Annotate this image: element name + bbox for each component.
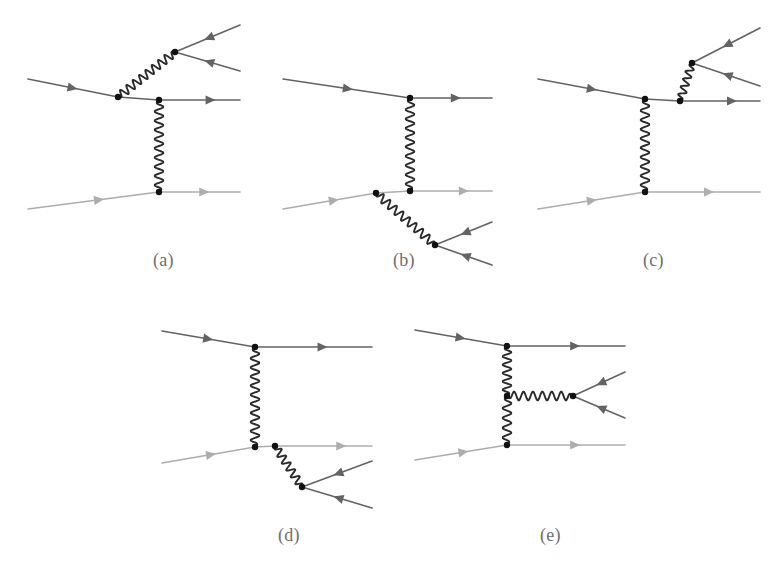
fermion-arrow-icon-d-pair-lepton-lower	[334, 495, 345, 504]
vertex-dot-d-0	[252, 344, 258, 350]
vertex-dot-d-2	[272, 443, 278, 449]
diagram-canvas	[0, 0, 770, 566]
fermion-line-c-outgoing-upper-fermion	[645, 99, 760, 101]
fermion-arrow-icon-c-pair-lepton-lower	[723, 72, 734, 81]
panel-label-b: (b)	[393, 250, 415, 271]
photon-line-c-exchange-photon	[641, 99, 649, 192]
fermion-arrow-icon-c-outgoing-upper-fermion	[727, 96, 737, 105]
vertex-dot-c-0	[642, 96, 648, 102]
vertex-dot-e-3	[570, 393, 576, 399]
photon-line-e-internal-conversion-photon	[507, 392, 573, 400]
vertex-dot-a-2	[156, 189, 162, 195]
photon-line-b-exchange-photon	[406, 98, 414, 191]
fermion-line-a-incoming-lower-fermion	[28, 192, 159, 209]
fermion-arrow-icon-b-incoming-lower-fermion	[328, 197, 339, 206]
vertex-dot-e-0	[504, 343, 510, 349]
fermion-arrow-icon-e-incoming-lower-fermion	[458, 448, 469, 457]
panel-label-d: (d)	[278, 525, 300, 546]
vertex-dot-c-2	[677, 98, 683, 104]
fermion-arrow-icon-d-incoming-upper-fermion	[203, 334, 214, 343]
photon-line-a-emitted-photon	[118, 52, 175, 97]
fermion-line-a-outgoing-upper-fermion	[118, 97, 240, 100]
fermion-arrow-icon-a-outgoing-lower-fermion	[199, 187, 209, 196]
fermion-arrow-icon-b-outgoing-upper-fermion	[451, 93, 461, 102]
fermion-arrow-icon-a-outgoing-upper-fermion	[206, 95, 216, 104]
fermion-arrow-icon-b-pair-lepton-lower	[461, 253, 472, 262]
fermion-arrow-icon-d-outgoing-lower-fermion	[336, 441, 346, 450]
vertex-dot-d-3	[299, 484, 305, 490]
fermion-arrow-icon-e-incoming-upper-fermion	[455, 333, 466, 342]
fermion-arrow-icon-c-incoming-upper-fermion	[586, 84, 597, 93]
photon-line-e-exchange-photon-lower	[503, 396, 511, 445]
fermion-arrow-icon-d-outgoing-upper-fermion	[318, 342, 328, 351]
fermion-arrow-icon-d-incoming-lower-fermion	[205, 451, 216, 460]
photon-line-d-exchange-photon	[251, 347, 259, 447]
fermion-arrow-icon-c-incoming-lower-fermion	[586, 197, 597, 206]
vertex-dot-b-3	[432, 242, 438, 248]
panel-label-c: (c)	[643, 250, 664, 271]
vertex-dot-b-2	[373, 190, 379, 196]
fermion-arrow-icon-e-outgoing-upper-fermion	[570, 341, 580, 350]
fermion-arrow-icon-b-incoming-upper-fermion	[342, 83, 353, 92]
vertex-dot-c-3	[689, 60, 695, 66]
fermion-arrow-icon-a-incoming-upper-fermion	[67, 82, 78, 91]
vertex-dot-e-1	[504, 442, 510, 448]
panel-label-e: (e)	[540, 525, 561, 546]
fermion-arrow-icon-b-outgoing-lower-fermion	[459, 186, 469, 195]
panel-label-a: (a)	[153, 250, 174, 271]
vertex-dot-d-1	[252, 444, 258, 450]
vertex-dot-e-2	[504, 393, 510, 399]
vertex-dot-a-3	[172, 49, 178, 55]
photon-line-e-exchange-photon-upper	[503, 346, 511, 396]
fermion-arrow-icon-a-incoming-lower-fermion	[93, 196, 104, 205]
fermion-line-b-outgoing-lower-fermion	[376, 191, 492, 193]
vertex-dot-b-1	[407, 188, 413, 194]
fermion-arrow-icon-d-pair-lepton-upper	[334, 468, 345, 477]
fermion-arrow-icon-e-outgoing-lower-fermion	[570, 440, 580, 449]
vertex-dot-c-1	[642, 189, 648, 195]
photon-line-d-emitted-photon	[275, 446, 303, 487]
feynman-figure: (a) (b) (c) (d) (e)	[0, 0, 770, 566]
fermion-arrow-icon-c-outgoing-lower-fermion	[704, 187, 714, 196]
vertex-dot-a-1	[156, 97, 162, 103]
vertex-dot-a-0	[115, 94, 121, 100]
vertex-dot-b-0	[407, 95, 413, 101]
photon-line-b-emitted-photon	[376, 193, 435, 245]
photon-line-c-emitted-photon	[678, 63, 694, 101]
photon-line-a-exchange-photon	[155, 100, 163, 192]
